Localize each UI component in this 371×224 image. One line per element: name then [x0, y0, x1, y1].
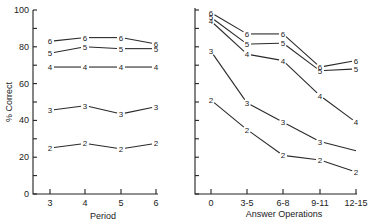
series-segment — [125, 107, 152, 113]
point-marker-3: 3 — [245, 99, 250, 108]
x-tick-label: 3-5 — [240, 198, 253, 208]
series-segment — [125, 144, 152, 148]
point-marker-3: 3 — [154, 103, 159, 112]
point-marker-4: 4 — [83, 63, 88, 72]
series-segment — [287, 124, 317, 140]
y-tick-label: 20 — [19, 152, 29, 162]
point-marker-4: 4 — [245, 50, 250, 59]
series-segment — [324, 61, 352, 66]
series-segment — [54, 144, 81, 148]
series-segment — [324, 161, 352, 170]
series-segment — [250, 132, 279, 153]
point-marker-6: 6 — [245, 30, 250, 39]
right-panel-answer-operations: 03-56-89-1112-15666665555544444333322222 — [195, 8, 368, 208]
series-segment — [54, 48, 81, 53]
series-segment — [213, 55, 244, 100]
point-marker-4: 4 — [354, 118, 359, 127]
point-marker-4: 4 — [119, 63, 124, 72]
point-marker-6: 6 — [48, 37, 53, 46]
right-x-axis-title: Answer Operations — [246, 209, 323, 219]
point-marker-2: 2 — [154, 139, 159, 148]
series-segment — [54, 106, 81, 110]
point-marker-6: 6 — [119, 34, 124, 43]
point-marker-2: 2 — [119, 145, 124, 154]
series-5: 5555 — [48, 43, 159, 58]
series-segment — [324, 69, 352, 70]
point-marker-4: 4 — [48, 63, 53, 72]
left-x-axis-title: Period — [90, 211, 116, 221]
point-marker-5: 5 — [281, 39, 286, 48]
series-6: 6666 — [48, 34, 159, 49]
series-segment — [287, 156, 316, 160]
point-marker-5: 5 — [83, 43, 88, 52]
series-segment — [89, 144, 117, 148]
x-tick-label: 0 — [208, 198, 213, 208]
point-marker-5: 5 — [119, 45, 124, 54]
chart-figure: 020406080100345666665555444433332222 03-… — [0, 0, 371, 224]
point-marker-6: 6 — [281, 30, 286, 39]
point-marker-2: 2 — [354, 168, 359, 177]
series-segment — [323, 98, 353, 120]
point-marker-3: 3 — [281, 118, 286, 127]
series-segment — [286, 37, 317, 65]
y-tick-label: 100 — [14, 5, 29, 15]
point-marker-2: 2 — [245, 126, 250, 135]
point-marker-2: 2 — [318, 156, 323, 165]
series-segment — [286, 46, 317, 69]
point-marker-5: 5 — [318, 67, 323, 76]
x-tick-label: 5 — [118, 198, 123, 208]
series-segment — [89, 47, 117, 48]
point-marker-3: 3 — [83, 102, 88, 111]
y-axis-title: % Correct — [4, 82, 14, 123]
point-marker-2: 2 — [83, 139, 88, 148]
point-marker-4: 4 — [281, 57, 286, 66]
series-segment — [286, 63, 317, 92]
series-segment — [251, 43, 279, 44]
series-segment — [251, 55, 279, 60]
x-tick-label: 12-15 — [344, 198, 367, 208]
point-marker-3: 3 — [119, 110, 124, 119]
y-tick-label: 60 — [19, 79, 29, 89]
point-marker-3: 3 — [318, 138, 323, 147]
point-marker-3: 3 — [209, 47, 214, 56]
x-tick-label: 4 — [82, 198, 87, 208]
point-marker-6: 6 — [83, 34, 88, 43]
series-segment — [125, 38, 152, 43]
x-tick-label: 9-11 — [311, 198, 328, 208]
series-2: 2222 — [48, 139, 159, 154]
series-4: 4444 — [48, 63, 159, 72]
series-segment — [251, 105, 280, 121]
series-5: 55555 — [209, 13, 359, 75]
series-segment — [54, 38, 81, 41]
point-marker-3: 3 — [48, 106, 53, 115]
point-marker-4: 4 — [154, 63, 159, 72]
point-marker-5: 5 — [354, 65, 359, 74]
y-tick-label: 80 — [19, 42, 29, 52]
series-segment — [89, 107, 117, 113]
point-marker-5: 5 — [154, 45, 159, 54]
x-tick-label: 6 — [153, 198, 158, 208]
point-marker-2: 2 — [281, 151, 286, 160]
point-marker-2: 2 — [48, 144, 53, 153]
axis-lines — [195, 8, 357, 194]
point-marker-5: 5 — [48, 49, 53, 58]
point-marker-5: 5 — [245, 40, 250, 49]
series-segment — [324, 143, 356, 151]
series-segment — [214, 24, 244, 52]
point-marker-2: 2 — [209, 96, 214, 105]
series-segment — [214, 103, 244, 127]
point-marker-4: 4 — [209, 17, 214, 26]
x-tick-label: 6-8 — [276, 198, 289, 208]
x-tick-label: 3 — [47, 198, 52, 208]
left-panel-period: 020406080100345666665555444433332222 — [14, 5, 159, 208]
y-tick-label: 0 — [24, 189, 29, 199]
series-3: 3333 — [48, 102, 159, 119]
y-tick-label: 40 — [19, 115, 29, 125]
point-marker-4: 4 — [318, 92, 323, 101]
